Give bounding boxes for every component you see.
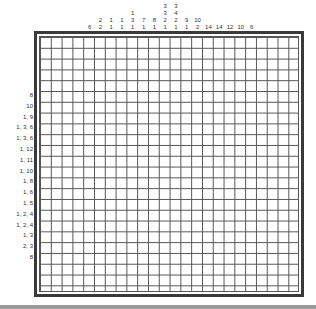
row-clue: 1, 12 [20, 144, 33, 155]
row-clue: 1, 11 [20, 155, 33, 166]
row-clue: 1, 9 [23, 112, 33, 123]
column-clue-number: 2 [196, 24, 199, 31]
column-clue: 81 [149, 17, 160, 31]
row-clue: 1, 3 [23, 230, 33, 241]
column-clue-number: 6 [250, 24, 253, 31]
column-clue-number: 3 [174, 3, 177, 10]
column-clue: 6 [84, 24, 95, 31]
column-clue-number: 3 [164, 10, 167, 17]
column-clue-number: 1 [174, 24, 177, 31]
column-clue: 11 [117, 17, 128, 31]
column-clue-number: 10 [194, 17, 201, 24]
column-clue-number: 14 [205, 24, 212, 31]
column-clue-number: 2 [99, 24, 102, 31]
column-clue: 3321 [160, 3, 171, 31]
column-clue-number: 1 [120, 17, 123, 24]
column-clue-number: 14 [216, 24, 223, 31]
row-clue: 1, 5 [23, 198, 33, 209]
row-clue: 1, 6 [23, 187, 33, 198]
puzzle-board[interactable] [34, 31, 304, 297]
column-clues: 622111113171813321342191102141412106 [41, 0, 300, 31]
row-clue: 1, 3, 6 [16, 122, 33, 133]
column-clue-number: 2 [99, 17, 102, 24]
column-clue-number: 1 [131, 24, 134, 31]
column-clue-number: 12 [227, 24, 234, 31]
column-clue-number: 2 [164, 17, 167, 24]
column-clue-number: 10 [237, 24, 244, 31]
row-clue: 1, 3, 6 [16, 133, 33, 144]
column-clue: 22 [95, 17, 106, 31]
column-clue: 10 [235, 24, 246, 31]
column-clue-number: 2 [174, 17, 177, 24]
column-clue: 14 [203, 24, 214, 31]
column-clue-number: 1 [110, 17, 113, 24]
column-clue: 3421 [171, 3, 182, 31]
column-clue-number: 6 [88, 24, 91, 31]
row-clue: 8 [30, 90, 33, 101]
column-clue-number: 3 [131, 17, 134, 24]
column-clue-number: 1 [131, 10, 134, 17]
puzzle-grid[interactable] [39, 36, 299, 292]
column-clue: 131 [127, 10, 138, 31]
row-clue: 1, 2, 4 [16, 220, 33, 231]
column-clue-number: 3 [164, 3, 167, 10]
row-clue: 10 [26, 101, 33, 112]
column-clue: 11 [106, 17, 117, 31]
row-clue: 2, 3 [23, 241, 33, 252]
row-clue: 1, 8 [23, 176, 33, 187]
column-clue: 102 [192, 17, 203, 31]
row-clue: 1, 2, 4 [16, 209, 33, 220]
column-clue: 91 [181, 17, 192, 31]
column-clue: 14 [214, 24, 225, 31]
column-clue-number: 1 [164, 24, 167, 31]
column-clue: 6 [246, 24, 257, 31]
column-clue: 71 [138, 17, 149, 31]
bottom-bar [0, 305, 316, 309]
row-clue: 1, 10 [20, 166, 33, 177]
column-clue-number: 1 [153, 24, 156, 31]
row-clue: 8 [30, 252, 33, 263]
column-clue-number: 8 [153, 17, 156, 24]
column-clue-number: 4 [174, 10, 177, 17]
column-clue-number: 1 [185, 24, 188, 31]
column-clue: 12 [225, 24, 236, 31]
column-clue-number: 9 [185, 17, 188, 24]
column-clue-number: 1 [142, 24, 145, 31]
column-clue-number: 7 [142, 17, 145, 24]
column-clue-number: 1 [110, 24, 113, 31]
column-clue-number: 1 [120, 24, 123, 31]
